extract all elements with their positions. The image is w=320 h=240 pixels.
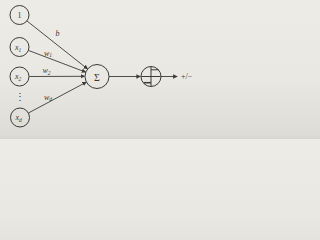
bias-node-label: 1 [18, 11, 22, 20]
edge-xd-to-sum [28, 82, 86, 113]
x2-node-label: x2 [14, 72, 22, 82]
threshold-node [141, 67, 161, 87]
x1-node-label: x1 [14, 43, 22, 53]
xd-node-label: xd [15, 113, 23, 123]
weight-label-w2: w2 [43, 66, 51, 76]
output-label: +/− [181, 72, 193, 81]
input-ellipsis: ⋮ [15, 91, 25, 102]
weight-label-b: b [56, 29, 60, 38]
weight-label-w1: w1 [44, 49, 52, 59]
perceptron-diagram: 1 x1 x2 ⋮ xd b w1 w2 wd Σ +/− [0, 0, 203, 139]
sigma-symbol: Σ [94, 72, 100, 83]
weight-label-wd: wd [44, 93, 52, 103]
